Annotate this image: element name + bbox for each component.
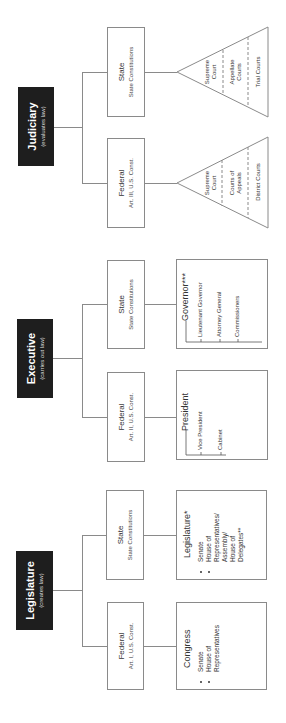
court-label: Trial Courts <box>255 57 262 88</box>
court-label: Appellate Courts <box>229 55 243 89</box>
level-source: State Constitutions <box>127 279 135 329</box>
level-title: State <box>117 295 127 314</box>
chamber-item: Senate <box>197 518 205 562</box>
level-title: State <box>116 526 126 545</box>
branch-subtitle: (creates law) <box>37 573 45 607</box>
connector <box>145 417 176 418</box>
detail-head: President <box>180 393 191 431</box>
state-legislature-detail: Legislature* Senate House of Representat… <box>182 496 264 572</box>
court-label: Courts of Appeals <box>229 165 243 201</box>
chamber-item: House of Representatives/ Assembly/ Hous… <box>205 518 245 562</box>
detail-head: Legislature* <box>182 510 193 558</box>
connector <box>144 646 176 647</box>
executive-federal-label: Federal Art. II, U.S. Const. <box>107 372 145 462</box>
executive-branch-label: Executive (carries out law) <box>17 319 53 398</box>
detail-head: Congress <box>182 629 193 668</box>
detail-item: Commissioners <box>233 296 241 337</box>
congress-detail: Congress Senate House of Representatives <box>182 606 264 682</box>
court-label: District Courts <box>255 163 262 201</box>
level-title: Federal <box>117 403 127 430</box>
branch-subtitle: (carries out law) <box>38 337 46 380</box>
connector <box>53 590 82 591</box>
detail-item: Attorney General <box>215 292 223 337</box>
detail-item: Cabinet <box>216 429 224 450</box>
legislature-branch-label: Legislature (creates law) <box>16 551 53 630</box>
connector <box>82 417 107 418</box>
connector <box>144 535 176 536</box>
court-label: Supreme Court <box>204 57 218 87</box>
legislature-federal-label: Federal Art. I, U.S. Const. <box>107 602 144 690</box>
state-supreme-court: Supreme Court <box>201 54 221 90</box>
level-source: Art. II, U.S. Const. <box>127 393 135 441</box>
state-appellate-courts: Appellate Courts <box>226 47 246 97</box>
branch-title: Legislature <box>24 561 37 620</box>
chamber-item: House of Representatives <box>205 612 221 672</box>
chamber-item: Senate <box>197 612 205 672</box>
legislature-state-label: State State Constitutions <box>106 490 144 580</box>
connector <box>82 304 83 417</box>
connector <box>82 535 106 536</box>
governor-head: Governor*** <box>180 261 194 321</box>
state-trial-courts: Trial Courts <box>251 39 266 105</box>
governor-item: Commissioners <box>233 263 243 337</box>
federal-district-courts: District Courts <box>251 148 266 216</box>
detail-item: Lieutenant Governor <box>196 282 204 337</box>
branch-title: Executive <box>25 333 38 384</box>
connector <box>53 358 82 359</box>
executive-state-label: State State Constitutions <box>107 260 145 349</box>
governor-item: Attorney General <box>215 263 225 337</box>
connector <box>82 304 107 305</box>
level-title: Federal <box>117 632 127 659</box>
connector <box>145 304 176 305</box>
chamber-list: Senate House of Representatives/ Assembl… <box>197 518 245 572</box>
connector <box>82 646 107 647</box>
president-item: Cabinet <box>216 390 226 450</box>
level-source: State Constitutions <box>126 510 134 560</box>
level-source: Art. I, U.S. Const. <box>127 623 135 670</box>
detail-item: Vice President <box>196 411 204 450</box>
court-label: Supreme Court <box>204 168 218 198</box>
governor-item: Lieutenant Governor <box>196 263 206 337</box>
connector <box>82 535 83 647</box>
federal-courts-of-appeals: Courts of Appeals <box>226 158 246 208</box>
detail-head: Governor*** <box>180 273 191 321</box>
president-item: Vice President <box>196 390 206 450</box>
chamber-list: Senate House of Representatives <box>197 612 221 682</box>
president-head: President <box>180 381 194 431</box>
federal-supreme-court: Supreme Court <box>201 165 221 201</box>
